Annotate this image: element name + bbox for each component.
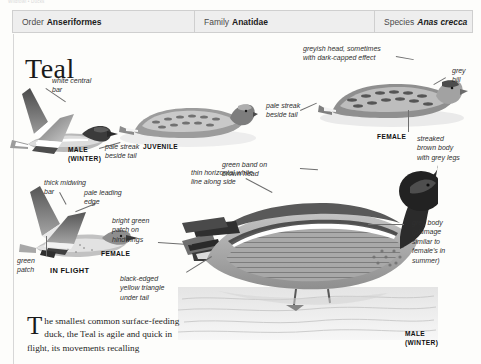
leader-streaked-brown-body [408, 110, 409, 132]
annotation-thin-horizontal-white-line: thin horizontal white line along side [191, 168, 253, 187]
annotation-pale-streak-beside-tail-right: pale streak beside tail [266, 101, 300, 120]
annotation-grey-bill: grey bill [452, 66, 466, 85]
tag-male-winter-in-flight: MALE (WINTER) [68, 146, 101, 164]
leader-green-patch [46, 236, 47, 256]
drop-cap: T [27, 315, 44, 336]
illustration-male-winter-swimming [178, 165, 438, 340]
annotation-green-patch: green patch [17, 256, 35, 275]
tag-juvenile: JUVENILE [143, 143, 178, 152]
illustration-plate: white central bar pale streak beside tai… [0, 0, 481, 364]
tag-male-winter-swimming: MALE (WINTER) [405, 330, 438, 348]
annotation-black-edged-yellow-triangle: black-edged yellow triangle under tail [120, 274, 164, 302]
leader-grey-body [368, 224, 404, 225]
annotation-thick-midwing-bar: thick midwing bar [44, 178, 86, 197]
annotation-streaked-brown-body: streaked brown body with grey legs [417, 134, 460, 162]
annotation-bright-green-patch: bright green patch on hindwings [112, 216, 149, 244]
tag-female-swimming: FEMALE [377, 133, 406, 142]
illustration-female-swimming [318, 60, 468, 132]
annotation-pale-leading-edge: pale leading edge [84, 188, 122, 207]
annotation-greyish-head: greyish head, sometimes with dark-capped… [303, 44, 381, 63]
intro-paragraph-text: he smallest common surface-feeding duck,… [27, 316, 179, 352]
annotation-white-central-bar: white central bar [52, 76, 91, 95]
intro-paragraph: The smallest common surface-feeding duck… [27, 315, 187, 355]
tag-in-flight: IN FLIGHT [50, 266, 89, 276]
field-guide-page: Wildfowl • Ducks Order Anseriformes Fami… [0, 0, 481, 364]
annotation-grey-body: grey body (plumage similar to female's i… [412, 218, 445, 265]
leader-pale-streak-right [300, 103, 317, 111]
tag-female-in-flight: FEMALE [101, 250, 130, 259]
annotation-pale-streak-beside-tail-left: pale streak beside tail [105, 142, 139, 161]
